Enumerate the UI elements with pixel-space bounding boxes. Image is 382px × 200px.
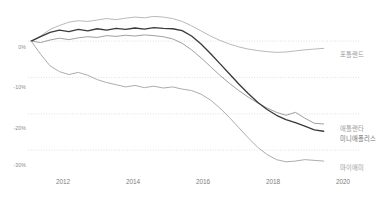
series-line-0 [31,16,324,52]
y-axis-tick-0: 0% [2,44,26,50]
y-axis-tick-1: -10% [2,84,26,90]
chart-plot-area [0,0,382,200]
x-axis-tick-4: 2020 [323,178,363,185]
x-axis-tick-2: 2016 [183,178,223,185]
x-axis-tick-0: 2012 [43,178,83,185]
series-line-3 [31,41,324,162]
x-axis-tick-1: 2014 [113,178,153,185]
series-label-miami: 마이애미 [340,163,364,172]
x-axis-tick-3: 2018 [253,178,293,185]
series-line-2 [31,28,324,132]
y-axis-tick-2: -20% [2,125,26,131]
line-chart: 0% -10% -20% -30% 2012 2014 2016 2018 20… [0,0,382,200]
series-label-atlanta: 애틀랜타 [340,124,364,133]
series-label-portland: 포틀랜드 [340,50,364,59]
y-axis-tick-3: -30% [2,162,26,168]
series-label-minneapolis: 미니애폴리스 [340,134,375,143]
series-line-1 [31,35,324,124]
